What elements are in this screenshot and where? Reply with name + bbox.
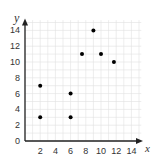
y-axis-arrow-icon	[22, 19, 28, 26]
y-tick-label: 14	[10, 25, 20, 35]
data-point	[69, 92, 73, 96]
data-point	[38, 84, 42, 88]
x-tick-label: 14	[126, 146, 136, 156]
y-tick-label: 0	[15, 136, 20, 146]
data-point	[91, 28, 95, 32]
y-tick-label: 4	[15, 104, 20, 114]
x-tick-label: 10	[96, 146, 106, 156]
x-tick-label: 6	[68, 146, 73, 156]
data-point	[99, 52, 103, 56]
y-tick-label: 6	[15, 89, 20, 99]
x-axis-label: x	[144, 142, 150, 154]
scatter-chart: 246810121402468101214xy	[0, 0, 160, 165]
x-axis-arrow-icon	[136, 138, 143, 144]
y-tick-label: 12	[10, 41, 20, 51]
data-point	[38, 115, 42, 119]
data-point	[69, 115, 73, 119]
data-point	[80, 52, 84, 56]
y-tick-label: 10	[10, 57, 20, 67]
x-tick-label: 4	[53, 146, 58, 156]
data-point	[112, 60, 116, 64]
x-tick-label: 12	[111, 146, 121, 156]
y-tick-label: 2	[15, 120, 20, 130]
x-tick-label: 2	[38, 146, 43, 156]
x-tick-label: 8	[83, 146, 88, 156]
y-tick-label: 8	[15, 73, 20, 83]
y-axis-label: y	[13, 11, 20, 25]
